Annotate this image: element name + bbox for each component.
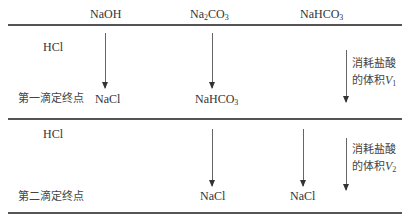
header-naoh: NaOH xyxy=(90,7,121,21)
section1-volume-sub: 1 xyxy=(392,79,396,88)
section2-endpoint-label: 第二滴定终点 xyxy=(18,189,84,205)
header-na2co3: Na2CO3 xyxy=(190,7,229,21)
section2-volume-text: 的体积 xyxy=(352,160,385,173)
section1-volume-line2: 的体积V1 xyxy=(352,72,396,89)
arrow-down-icon xyxy=(346,138,347,190)
section2-reagent: HCl xyxy=(43,127,63,141)
arrow-down-icon xyxy=(105,33,106,88)
section1-na2co3-product-pre: NaHCO xyxy=(195,92,234,106)
section1-volume-text: 的体积 xyxy=(352,74,385,87)
header-na2co3-mid: CO xyxy=(208,7,225,21)
section1-na2co3-product: NaHCO3 xyxy=(195,92,238,106)
middle-rule xyxy=(8,118,402,120)
section1-naoh-product: NaCl xyxy=(95,92,120,106)
section1-volume-line1: 消耗盐酸 xyxy=(352,56,396,72)
section1-na2co3-product-sub: 3 xyxy=(234,98,238,107)
section1-endpoint-label: 第一滴定终点 xyxy=(18,91,84,107)
section2-na2co3-product: NaCl xyxy=(200,189,225,203)
top-rule xyxy=(8,24,402,26)
header-nahco3-sub: 3 xyxy=(339,13,343,22)
header-na2co3-sub2: 3 xyxy=(225,13,229,22)
header-nahco3: NaHCO3 xyxy=(300,7,343,21)
section1-volume-label: 消耗盐酸 的体积V1 xyxy=(352,56,396,89)
header-na2co3-pre: Na xyxy=(190,7,204,21)
arrow-down-icon xyxy=(303,129,304,186)
bottom-rule xyxy=(8,212,402,214)
arrow-down-icon xyxy=(212,33,213,88)
section2-volume-line2: 的体积V2 xyxy=(352,158,396,175)
section2-volume-label: 消耗盐酸 的体积V2 xyxy=(352,142,396,175)
section2-volume-sub: 2 xyxy=(392,165,396,174)
section2-nahco3-product: NaCl xyxy=(290,189,315,203)
arrow-down-icon xyxy=(212,129,213,186)
section1-reagent: HCl xyxy=(43,40,63,54)
arrow-down-icon xyxy=(346,50,347,102)
header-nahco3-pre: NaHCO xyxy=(300,7,339,21)
section2-volume-line1: 消耗盐酸 xyxy=(352,142,396,158)
